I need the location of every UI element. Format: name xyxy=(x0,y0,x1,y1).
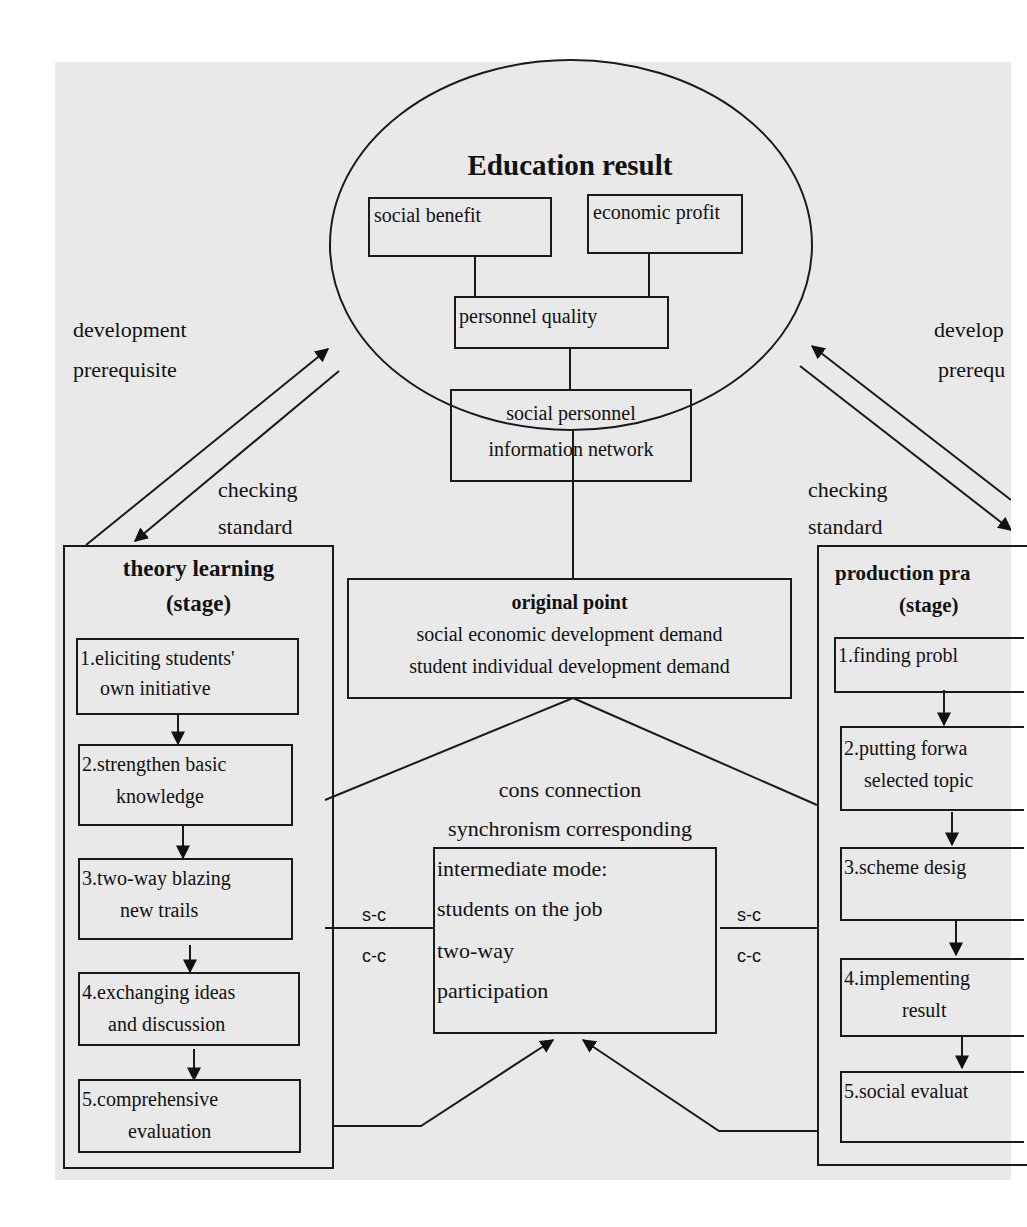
theory-step-2-line-1: 2.strengthen basic xyxy=(82,752,226,776)
economic-profit-box: economic profit xyxy=(587,194,743,254)
theory-step-2: 2.strengthen basic knowledge xyxy=(78,744,293,826)
right-standard-label: standard xyxy=(808,515,883,539)
original-point-line-1: social economic development demand xyxy=(349,622,790,646)
production-step-2-line-2: selected topic xyxy=(864,768,973,792)
personnel-quality-box: personnel quality xyxy=(454,296,669,349)
right-c-c-label: c-c xyxy=(737,944,761,968)
production-step-1-line-1: 1.finding probl xyxy=(838,643,958,667)
production-step-3: 3.scheme desig xyxy=(840,847,1024,921)
personnel-quality-label: personnel quality xyxy=(459,304,597,328)
synchronism-corresponding-label: synchronism corresponding xyxy=(370,817,770,841)
original-point-box: original point social economic developme… xyxy=(347,578,792,699)
production-practice-subtitle: (stage) xyxy=(899,593,958,617)
theory-step-1: 1.eliciting students' own initiative xyxy=(76,638,299,715)
intermediate-line-2: students on the job xyxy=(437,897,603,921)
theory-step-3-line-1: 3.two-way blazing xyxy=(82,866,231,890)
right-s-c-label: s-c xyxy=(737,903,761,927)
social-benefit-box: social benefit xyxy=(368,197,552,257)
theory-learning-title: theory learning xyxy=(65,557,332,581)
cons-connection-label: cons connection xyxy=(400,778,740,802)
production-step-4: 4.implementing result xyxy=(840,958,1024,1037)
production-step-5: 5.social evaluat xyxy=(840,1071,1024,1143)
economic-profit-label: economic profit xyxy=(593,200,720,224)
production-step-2-line-1: 2.putting forwa xyxy=(844,736,967,760)
production-step-1: 1.finding probl xyxy=(834,637,1024,693)
theory-step-5: 5.comprehensive evaluation xyxy=(78,1079,301,1153)
theory-step-1-line-2: own initiative xyxy=(100,676,211,700)
production-step-4-line-2: result xyxy=(902,998,946,1022)
production-step-4-line-1: 4.implementing xyxy=(844,966,970,990)
production-step-3-line-1: 3.scheme desig xyxy=(844,855,966,879)
left-checking-label: checking xyxy=(218,478,297,502)
left-standard-label: standard xyxy=(218,515,293,539)
production-step-2: 2.putting forwa selected topic xyxy=(840,726,1024,811)
right-prerequisite-label: prerequ xyxy=(938,358,1005,382)
production-step-5-line-1: 5.social evaluat xyxy=(844,1079,968,1103)
left-s-c-label: s-c xyxy=(362,903,386,927)
theory-step-4: 4.exchanging ideas and discussion xyxy=(78,972,300,1046)
social-benefit-label: social benefit xyxy=(374,203,481,227)
production-practice-title: production pra xyxy=(835,561,971,585)
theory-step-3: 3.two-way blazing new trails xyxy=(78,858,293,940)
theory-learning-subtitle: (stage) xyxy=(65,592,332,616)
network-line-2: information network xyxy=(452,437,690,461)
social-personnel-network-box: social personnel information network xyxy=(450,389,692,482)
original-point-title: original point xyxy=(349,590,790,614)
theory-step-5-line-1: 5.comprehensive xyxy=(82,1087,218,1111)
theory-step-5-line-2: evaluation xyxy=(128,1119,211,1143)
left-c-c-label: c-c xyxy=(362,944,386,968)
original-point-line-2: student individual development demand xyxy=(349,654,790,678)
intermediate-mode-box: intermediate mode: students on the job t… xyxy=(433,847,717,1034)
right-development-label: develop xyxy=(934,318,1004,342)
theory-step-3-line-2: new trails xyxy=(120,898,198,922)
theory-step-1-line-1: 1.eliciting students' xyxy=(80,646,235,670)
left-development-label: development xyxy=(73,318,187,342)
left-prerequisite-label: prerequisite xyxy=(73,358,177,382)
right-checking-label: checking xyxy=(808,478,887,502)
theory-step-2-line-2: knowledge xyxy=(116,784,204,808)
intermediate-line-4: participation xyxy=(437,979,548,1003)
education-result-title: Education result xyxy=(420,148,720,182)
theory-step-4-line-1: 4.exchanging ideas xyxy=(82,980,235,1004)
intermediate-line-3: two-way xyxy=(437,939,514,963)
theory-step-4-line-2: and discussion xyxy=(108,1012,225,1036)
network-line-1: social personnel xyxy=(452,401,690,425)
intermediate-line-1: intermediate mode: xyxy=(437,857,607,881)
